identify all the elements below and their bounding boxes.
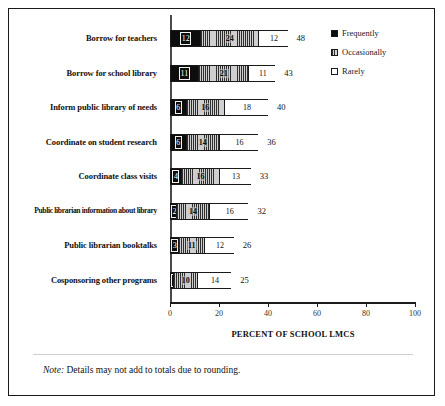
category-label: Borrow for school library bbox=[9, 56, 157, 90]
bar-segment-value: 14 bbox=[198, 273, 232, 288]
x-axis-tick-label: 40 bbox=[253, 309, 283, 318]
category-label: Coordinate on student research bbox=[9, 125, 157, 159]
bar-segment-frequently: 12 bbox=[171, 31, 200, 46]
bar-segment-value: 10 bbox=[174, 273, 197, 288]
bar-segment-value: 24 bbox=[201, 31, 258, 46]
chart-bar-row: Coordinate on student research6141636 bbox=[9, 125, 436, 159]
stacked-bar: 31112 bbox=[170, 237, 234, 254]
bar-segment-value: 16 bbox=[182, 169, 219, 184]
bar-segment-value: 16 bbox=[187, 100, 224, 115]
bar-segment-value: 3 bbox=[171, 238, 178, 253]
bar-segment-frequently: 11 bbox=[171, 66, 198, 81]
x-axis-tick-label: 100 bbox=[400, 309, 430, 318]
stacked-bar: 122412 bbox=[170, 30, 288, 47]
legend-swatch-frequently-icon bbox=[331, 30, 338, 37]
category-label: Inform public library of needs bbox=[9, 90, 157, 124]
bar-segment-rarely: 16 bbox=[220, 135, 259, 150]
note-text: Details may not add to totals due to rou… bbox=[64, 365, 240, 375]
x-axis-tick-label: 80 bbox=[351, 309, 381, 318]
note-label: Note: bbox=[43, 365, 64, 375]
bar-segment-frequently: 4 bbox=[171, 169, 181, 184]
bar-segment-occasionally: 14 bbox=[176, 204, 210, 219]
stacked-bar: 11014 bbox=[170, 272, 231, 289]
bar-segment-value: 11 bbox=[171, 66, 198, 81]
bar-segment-occasionally: 16 bbox=[186, 100, 225, 115]
category-label: Borrow for teachers bbox=[9, 21, 157, 55]
bar-segment-occasionally: 24 bbox=[200, 31, 259, 46]
chart-bar-row: Coordinate class visits4161333 bbox=[9, 159, 436, 193]
bar-segment-occasionally: 11 bbox=[178, 238, 205, 253]
bar-segment-occasionally: 10 bbox=[173, 273, 198, 288]
bar-total-value: 32 bbox=[257, 203, 266, 220]
figure-frame: Borrow for teachers12241248Borrow for sc… bbox=[8, 8, 435, 396]
bar-total-value: 43 bbox=[284, 65, 293, 82]
bar-segment-rarely: 12 bbox=[259, 31, 288, 46]
bar-total-value: 36 bbox=[267, 134, 276, 151]
chart-bar-row: Public librarian booktalks3111226 bbox=[9, 228, 436, 262]
bar-segment-value: 12 bbox=[171, 31, 200, 46]
bar-segment-value: 14 bbox=[177, 204, 209, 219]
category-label: Public librarian booktalks bbox=[9, 228, 157, 262]
x-axis-tick-label: 20 bbox=[204, 309, 234, 318]
bar-total-value: 26 bbox=[243, 237, 252, 254]
bar-segment-value: 4 bbox=[171, 169, 181, 184]
bar-segment-frequently: 6 bbox=[171, 135, 186, 150]
bar-segment-rarely: 14 bbox=[198, 273, 232, 288]
bar-segment-rarely: 12 bbox=[205, 238, 234, 253]
chart-legend: Frequently Occasionally Rarely bbox=[331, 26, 431, 83]
bar-segment-value: 12 bbox=[205, 238, 234, 253]
bar-segment-rarely: 18 bbox=[225, 100, 269, 115]
x-axis-tick bbox=[317, 303, 318, 307]
x-axis-tick bbox=[415, 303, 416, 307]
bar-segment-value: 14 bbox=[187, 135, 219, 150]
bar-segment-value: 11 bbox=[179, 238, 204, 253]
stacked-bar: 61618 bbox=[170, 99, 268, 116]
bar-segment-frequently: 6 bbox=[171, 100, 186, 115]
bar-segment-occasionally: 14 bbox=[186, 135, 220, 150]
bar-segment-value: 11 bbox=[249, 66, 276, 81]
figure-note: Note: Details may not add to totals due … bbox=[43, 365, 240, 375]
x-axis-tick-label: 0 bbox=[155, 309, 185, 318]
bar-segment-value: 6 bbox=[171, 135, 186, 150]
bar-segment-value: 16 bbox=[220, 135, 259, 150]
bar-segment-value: 16 bbox=[210, 204, 249, 219]
chart-bar-row: Public librarian information about libra… bbox=[9, 194, 436, 228]
bar-segment-value: 21 bbox=[199, 66, 248, 81]
x-axis-tick bbox=[170, 303, 171, 307]
x-axis-tick bbox=[268, 303, 269, 307]
legend-swatch-rarely-icon bbox=[331, 68, 338, 75]
bar-segment-occasionally: 16 bbox=[181, 169, 220, 184]
x-axis-line bbox=[170, 302, 416, 304]
x-axis-tick bbox=[219, 303, 220, 307]
bar-total-value: 25 bbox=[240, 272, 249, 289]
stacked-bar: 41613 bbox=[170, 168, 251, 185]
legend-item-frequently: Frequently bbox=[331, 26, 431, 45]
bar-total-value: 40 bbox=[277, 99, 286, 116]
bar-total-value: 48 bbox=[297, 30, 306, 47]
bar-segment-rarely: 11 bbox=[249, 66, 276, 81]
note-divider bbox=[33, 354, 413, 355]
category-label: Public librarian information about libra… bbox=[9, 194, 157, 228]
x-axis-tick-label: 60 bbox=[302, 309, 332, 318]
x-axis-tick bbox=[366, 303, 367, 307]
chart-bar-row: Cosponsoring other programs1101425 bbox=[9, 263, 436, 297]
bar-segment-value: 12 bbox=[259, 31, 288, 46]
chart-bar-row: Inform public library of needs6161840 bbox=[9, 90, 436, 124]
category-label: Coordinate class visits bbox=[9, 159, 157, 193]
bar-segment-value: 13 bbox=[220, 169, 252, 184]
bar-segment-rarely: 13 bbox=[220, 169, 252, 184]
legend-item-rarely: Rarely bbox=[331, 64, 431, 83]
bar-segment-value: 6 bbox=[171, 100, 186, 115]
stacked-bar: 21416 bbox=[170, 203, 248, 220]
x-axis-title: PERCENT OF SCHOOL LMCS bbox=[170, 329, 416, 339]
bar-segment-occasionally: 21 bbox=[198, 66, 249, 81]
bar-segment-frequently: 3 bbox=[171, 238, 178, 253]
bar-total-value: 33 bbox=[260, 168, 269, 185]
legend-label-occasionally: Occasionally bbox=[342, 45, 386, 60]
bar-segment-rarely: 16 bbox=[210, 204, 249, 219]
legend-swatch-occasionally-icon bbox=[331, 49, 338, 56]
stacked-bar: 112111 bbox=[170, 65, 275, 82]
bar-segment-value: 18 bbox=[225, 100, 269, 115]
stacked-bar: 61416 bbox=[170, 134, 258, 151]
legend-label-rarely: Rarely bbox=[342, 64, 365, 79]
